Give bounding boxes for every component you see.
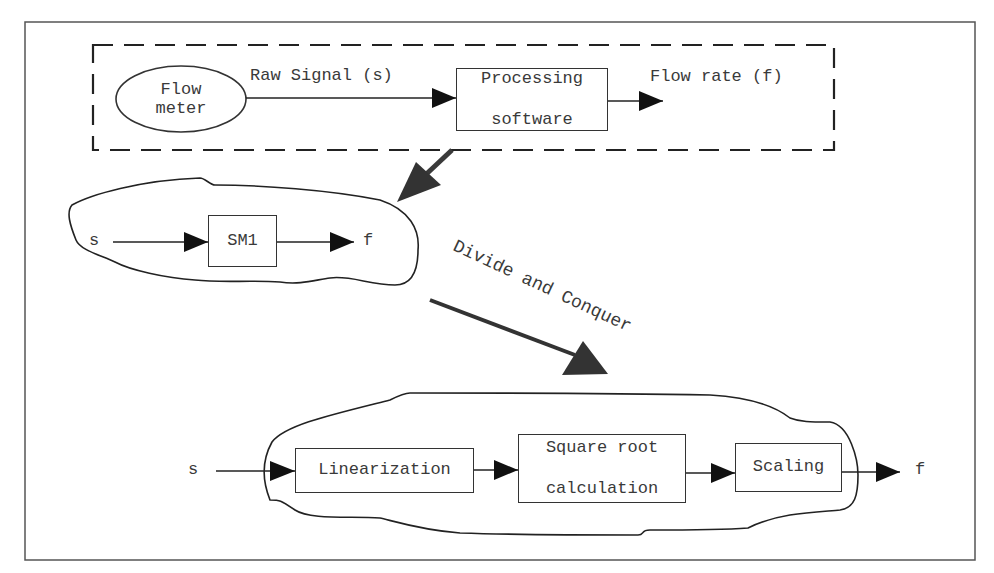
sm1-block-label: SM1	[227, 231, 258, 251]
decomp-output-label: f	[915, 461, 925, 480]
linearization-label: Linearization	[318, 460, 451, 480]
flow-meter-label: Flow meter	[141, 81, 221, 118]
divide-conquer-arrowhead	[562, 341, 608, 375]
processing-line2: software	[481, 110, 583, 130]
square-root-line2: calculation	[546, 479, 658, 499]
flow-rate-label: Flow rate (f)	[650, 68, 783, 87]
diagram-canvas: Flow meter Raw Signal (s) Processing sof…	[0, 0, 994, 573]
square-root-block: Square root calculation	[518, 434, 686, 503]
scaling-block: Scaling	[735, 443, 842, 492]
scaling-label: Scaling	[753, 457, 824, 477]
processing-software-block: Processing software	[456, 68, 608, 131]
sm1-input-label: s	[89, 232, 99, 251]
divide-conquer-arrow	[430, 300, 575, 355]
raw-signal-label: Raw Signal (s)	[250, 67, 393, 86]
linearization-block: Linearization	[295, 448, 474, 493]
sm1-block: SM1	[208, 215, 277, 267]
flow-meter-line1: Flow	[141, 81, 221, 100]
flow-meter-line2: meter	[141, 100, 221, 119]
square-root-line1: Square root	[546, 438, 658, 458]
decomp-input-label: s	[188, 461, 198, 480]
processing-line1: Processing	[481, 69, 583, 89]
sm1-output-label: f	[363, 232, 373, 251]
